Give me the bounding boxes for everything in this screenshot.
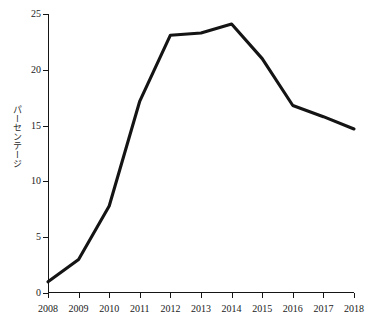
x-tick-mark — [201, 293, 202, 298]
x-tick-mark — [109, 293, 110, 298]
x-tick-mark — [48, 293, 49, 298]
x-tick-mark — [293, 293, 294, 298]
y-tick-label: 5 — [36, 230, 41, 243]
y-tick-label: 0 — [36, 286, 41, 299]
y-tick-label: 10 — [31, 174, 41, 187]
x-tick-mark — [79, 293, 80, 298]
x-tick-mark — [232, 293, 233, 298]
data-series-percentage — [48, 14, 354, 293]
y-tick-label: 15 — [31, 119, 41, 132]
y-axis-title: パーセンテージ — [6, 105, 22, 168]
series-line-path — [48, 24, 354, 282]
x-tick-mark — [323, 293, 324, 298]
x-tick-mark — [354, 293, 355, 298]
plot-area: 0510152025 20082009201020112012201320142… — [48, 14, 354, 293]
x-tick-label: 2018 — [334, 302, 374, 315]
x-tick-mark — [262, 293, 263, 298]
y-tick-label: 20 — [31, 63, 41, 76]
x-tick-mark — [140, 293, 141, 298]
y-tick-label: 25 — [31, 7, 41, 20]
line-chart: パーセンテージ 0510152025 200820092010201120122… — [0, 0, 374, 321]
x-tick-mark — [170, 293, 171, 298]
